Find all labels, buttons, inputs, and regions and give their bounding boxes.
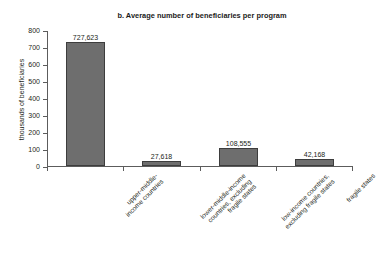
bar-value-label: 27,618 <box>151 153 172 160</box>
bar-upper-middle-income-countries[interactable]: 727,623 <box>66 42 105 166</box>
x-axis-tick <box>47 167 48 171</box>
bar-value-label: 42,168 <box>304 151 325 158</box>
x-axis-category-label-1: lower-middle-income countries, excluding… <box>199 172 258 231</box>
y-axis-tick-label: 700 <box>28 43 40 52</box>
y-axis-tick: 300 <box>43 116 47 117</box>
y-axis-tick: 400 <box>43 99 47 100</box>
x-axis-tick <box>123 167 124 171</box>
x-axis-category-label-2: low-income countries, excluding fragile … <box>278 172 336 230</box>
bar-fragile-states[interactable]: 42,168 <box>295 159 334 166</box>
y-axis-tick: 600 <box>43 65 47 66</box>
x-axis-tick <box>200 167 201 171</box>
y-axis-tick-label: 300 <box>28 111 40 120</box>
y-axis-tick-label: 200 <box>28 128 40 137</box>
x-axis-tick <box>352 167 353 171</box>
y-axis-tick-label: 400 <box>28 94 40 103</box>
y-axis-tick: 800 <box>43 31 47 32</box>
y-axis-tick: 200 <box>43 133 47 134</box>
y-axis-line <box>47 31 48 167</box>
chart-figure: b. Average number of beneficiaries per p… <box>0 0 380 258</box>
y-axis-tick-label: 0 <box>36 162 40 171</box>
chart-title: b. Average number of beneficiaries per p… <box>52 11 352 20</box>
category-line: low-income countries, <box>278 172 331 225</box>
bar-lower-middle-income-countries[interactable]: 27,618 <box>142 161 181 166</box>
y-axis-tick: 700 <box>43 48 47 49</box>
y-axis-tick-label: 100 <box>28 145 40 154</box>
y-axis-tick-label: 500 <box>28 77 40 86</box>
y-axis-tick-label: 800 <box>28 26 40 35</box>
category-line: fragile states <box>345 172 377 204</box>
bar-value-label: 727,623 <box>73 34 98 41</box>
plot-area: 800 700 600 500 400 300 200 100 0 727,62… <box>47 31 353 167</box>
y-axis-title: thousands of beneficiaries <box>18 35 25 165</box>
y-axis-tick: 500 <box>43 82 47 83</box>
y-axis-tick: 100 <box>43 150 47 151</box>
bar-value-label: 108,555 <box>226 140 251 147</box>
x-axis-category-label-0: upper-middle- income countries <box>119 172 165 218</box>
x-axis-tick <box>276 167 277 171</box>
x-axis-category-label-3: fragile states <box>345 172 377 204</box>
y-axis-tick-label: 600 <box>28 60 40 69</box>
category-line: excluding fragile states <box>283 177 336 230</box>
bar-low-income-countries[interactable]: 108,555 <box>219 148 258 167</box>
